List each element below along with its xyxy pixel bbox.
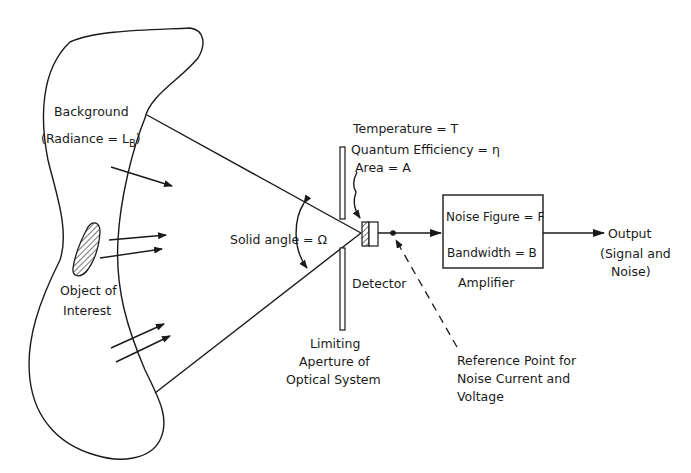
radiation-arrow-3 [100,249,162,258]
reference-point-dot [390,230,396,236]
aperture-label-line1: Limiting [310,336,360,351]
radiation-arrow-5 [116,336,170,362]
solid-angle-label: Solid angle = Ω [230,232,328,247]
noise-figure-label: Noise Figure = F [446,210,544,224]
detector-housing [369,222,378,246]
fov-ray-lower [155,233,361,393]
aperture-label-line2: Aperture of [299,354,370,369]
radiation-arrow-4 [111,324,164,348]
radiance-suffix: ) [136,131,141,146]
reference-point-label-line1: Reference Point for [457,353,577,368]
radiance-prefix: (Radiance = L [41,131,129,146]
output-label-line2: (Signal and [600,246,671,261]
object-of-interest-shape [73,223,100,276]
output-label-line3: Noise) [611,264,651,279]
detector-system-diagram: Background (Radiance = LB) Object of Int… [0,0,691,473]
temperature-label: Temperature = T [352,121,459,136]
aperture-plate-lower [340,248,345,330]
fov-ray-upper [147,115,361,233]
background-label: Background [54,104,129,119]
detector-label: Detector [352,276,407,291]
area-label: Area = A [355,160,411,175]
aperture-plate-upper [340,147,345,219]
amplifier-label: Amplifier [458,275,515,290]
output-label-line1: Output [608,226,652,241]
area-leader-line [353,172,360,218]
radiation-arrow-1 [111,167,172,186]
background-region-outline [29,28,203,459]
aperture-label-line3: Optical System [286,372,381,387]
reference-point-label-line3: Voltage [457,389,504,404]
bandwidth-label: Bandwidth = B [447,246,537,260]
radiance-label: (Radiance = LB) [41,131,141,149]
quantum-efficiency-label: Quantum Efficiency = η [351,142,500,157]
object-label-line2: Interest [63,303,111,318]
reference-point-label-line2: Noise Current and [457,371,570,386]
object-label-line1: Object of [60,283,117,298]
detector-element [362,222,369,246]
